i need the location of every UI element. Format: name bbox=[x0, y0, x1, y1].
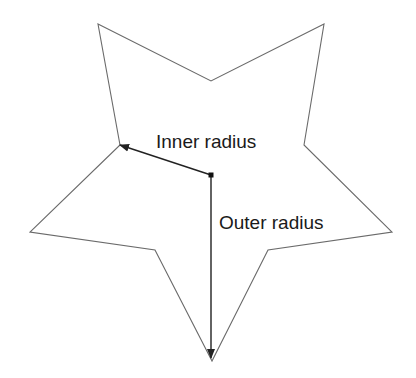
center-point-marker bbox=[209, 173, 214, 178]
star-radius-diagram: Inner radius Outer radius bbox=[0, 0, 416, 378]
inner-radius-label: Inner radius bbox=[156, 131, 256, 152]
diagram-background bbox=[0, 0, 416, 378]
outer-radius-label: Outer radius bbox=[219, 212, 324, 233]
